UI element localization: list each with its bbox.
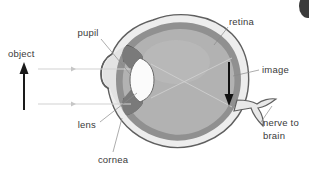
leader-cornea: [113, 118, 122, 152]
label-image: image: [262, 64, 289, 75]
label-cornea: cornea: [98, 154, 129, 165]
object-arrow-group: [20, 62, 29, 110]
label-lens: lens: [78, 119, 96, 130]
label-pupil: pupil: [77, 27, 98, 38]
eye-diagram-figure: object pupil retina image lens cornea ne…: [0, 0, 309, 173]
label-retina: retina: [229, 16, 254, 27]
eyeball-group: [101, 15, 276, 148]
label-nerve-line1: nerve to: [263, 117, 299, 128]
eye-diagram-svg: object pupil retina image lens cornea ne…: [0, 0, 309, 173]
ray-lower-arrowhead: [71, 102, 76, 107]
label-object: object: [8, 48, 35, 59]
label-nerve-line2: brain: [263, 130, 285, 141]
corner-blob-decoration: [299, 0, 309, 18]
ray-upper-arrowhead: [71, 67, 76, 72]
object-arrow-head: [20, 62, 29, 74]
